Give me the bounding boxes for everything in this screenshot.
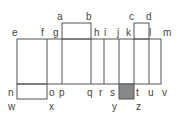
label-o: o <box>49 87 55 98</box>
label-y: y <box>112 101 117 112</box>
label-s: s <box>110 87 115 98</box>
label-w: w <box>7 101 16 112</box>
label-x: x <box>49 101 54 112</box>
main-strip <box>17 39 161 84</box>
label-u: u <box>148 87 154 98</box>
net-diagram: a b c d e f g h i j k l m n o p q r s t … <box>0 0 176 120</box>
bottom-flap-nx <box>17 84 47 99</box>
label-p: p <box>59 87 65 98</box>
label-k: k <box>126 27 132 38</box>
bottom-flap-yz-shaded <box>119 84 134 99</box>
label-b: b <box>86 11 92 22</box>
label-a: a <box>57 11 63 22</box>
label-h: h <box>94 27 100 38</box>
label-n: n <box>8 87 14 98</box>
label-z: z <box>136 101 141 112</box>
top-flap-cd <box>134 23 149 39</box>
label-l: l <box>149 27 151 38</box>
label-g: g <box>53 27 59 38</box>
label-m: m <box>163 27 171 38</box>
label-t: t <box>136 87 139 98</box>
label-q: q <box>87 87 93 98</box>
label-j: j <box>116 27 119 38</box>
label-d: d <box>146 11 152 22</box>
label-v: v <box>162 87 167 98</box>
label-r: r <box>99 87 103 98</box>
label-e: e <box>12 27 18 38</box>
label-i: i <box>104 27 106 38</box>
label-f: f <box>41 27 44 38</box>
label-c: c <box>129 11 134 22</box>
top-flap-ab <box>62 23 91 39</box>
